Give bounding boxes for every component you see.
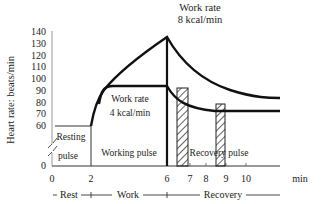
x-tick: 2 (89, 173, 94, 184)
y-tick: 130 (31, 38, 46, 49)
x-tick: 0 (50, 173, 55, 184)
phase-bar (53, 192, 280, 198)
label-working-pulse: Working pulse (101, 148, 156, 158)
y-axis-label: Heart rate: beats/min (5, 55, 16, 144)
phase-rest: Rest (60, 189, 78, 200)
x-tick: 7 (188, 173, 193, 184)
y-tick: 100 (31, 73, 46, 84)
x-tick: 10 (241, 173, 251, 184)
y-tick: 70 (36, 108, 46, 119)
phase-work: Work (117, 189, 139, 200)
x-tick-labels: 0 2 6 7 8 9 10 (50, 173, 252, 184)
phase-recovery: Recovery (204, 189, 242, 200)
label-recovery-pulse: Recovery pulse (190, 148, 249, 158)
x-tick: 6 (165, 173, 170, 184)
label-pulse: pulse (58, 151, 78, 161)
chart-title-line1: Work rate (179, 2, 221, 13)
y-tick: 140 (31, 26, 46, 37)
y-tick: 110 (31, 61, 46, 72)
y-tick: 90 (36, 85, 46, 96)
y-tick-labels: 140 130 120 110 100 90 80 70 60 0 (31, 26, 46, 171)
y-tick: 0 (41, 160, 46, 171)
label-4kcal: 4 kcal/min (110, 108, 151, 118)
y-tick: 80 (36, 97, 46, 108)
y-tick: 60 (36, 120, 46, 131)
label-work-rate: Work rate (111, 94, 148, 104)
label-resting: Resting (56, 132, 85, 142)
x-tick: 8 (204, 173, 209, 184)
y-tick: 120 (31, 50, 46, 61)
chart-title-line2: 8 kcal/min (178, 14, 223, 25)
x-tick: 9 (224, 173, 229, 184)
heart-rate-chart: Work rate 8 kcal/min Heart rate: beats/m… (0, 0, 326, 204)
x-axis-unit: min (292, 173, 308, 184)
